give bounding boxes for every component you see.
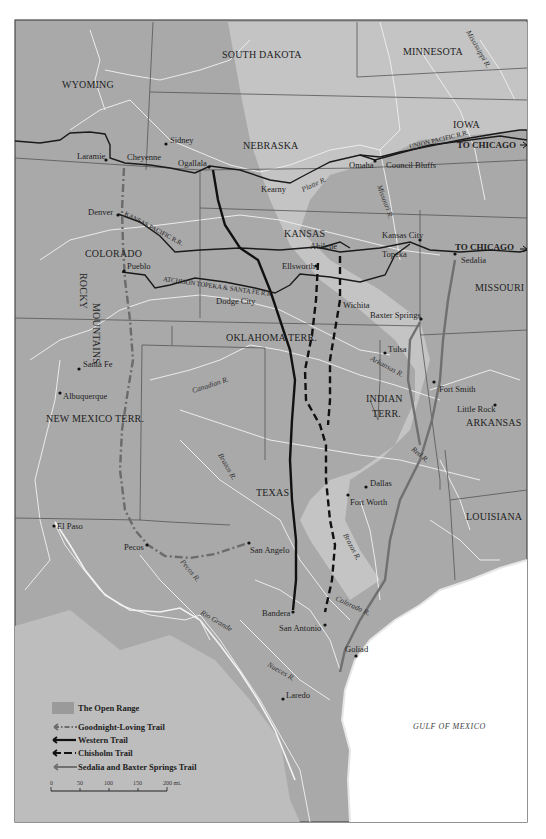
label-santa-fe: Santa Fe (83, 359, 113, 369)
label-little-rock: Little Rock (457, 404, 496, 414)
label-goliad: Goliad (345, 644, 369, 654)
scale-tick-0: 0 (50, 780, 53, 786)
label-topeka: Topeka (382, 249, 407, 259)
scale-tick-100: 100 (104, 780, 113, 786)
label-louisiana: LOUISIANA (466, 511, 523, 522)
scale-tick-150: 150 (133, 780, 142, 786)
label-new-mexico-terr: NEW MEXICO TERR. (46, 413, 144, 424)
legend-chisholm: Chisholm Trail (78, 748, 133, 758)
label-kansas: KANSAS (284, 228, 325, 239)
label-rocky: ROCKY (78, 273, 89, 309)
label-san-angelo: San Angelo (250, 545, 289, 555)
label-pueblo: Pueblo (127, 261, 151, 271)
label-dodge-city: Dodge City (216, 296, 256, 306)
label-fort-smith: Fort Smith (439, 384, 476, 394)
legend-swatch-open-range (52, 702, 74, 714)
label-pecos: Pecos (124, 542, 144, 552)
label-bandera: Bandera (262, 608, 291, 618)
label-el-paso: El Paso (57, 521, 83, 531)
label-texas: TEXAS (256, 487, 289, 498)
label-minnesota: MINNESOTA (403, 46, 463, 57)
legend-goodnight-loving: Goodnight-Loving Trail (78, 722, 165, 732)
label-baxter-springs: Baxter Springs (370, 310, 421, 320)
label-colorado: COLORADO (85, 248, 142, 259)
label-nebraska: NEBRASKA (243, 140, 299, 151)
label-arkansas: ARKANSAS (466, 417, 522, 428)
label-albuquerque: Albuquerque (63, 391, 108, 401)
legend-sedalia-baxter: Sedalia and Baxter Springs Trail (78, 762, 197, 772)
label-tulsa: Tulsa (388, 344, 407, 354)
label-denver: Denver (88, 207, 113, 217)
label-kearny: Kearny (261, 184, 287, 194)
label-cheyenne: Cheyenne (127, 152, 161, 162)
label-ellsworth: Ellsworth (282, 261, 316, 271)
label-san-antonio: San Antonio (279, 623, 321, 633)
label-to-chicago-north: TO CHICAGO (457, 140, 516, 150)
label-dallas: Dallas (370, 478, 392, 488)
label-abilene: Abilene (310, 241, 337, 251)
scale-tick-200: 200 mi. (163, 780, 182, 786)
label-laramie: Laramie (77, 151, 106, 161)
label-south-dakota: SOUTH DAKOTA (222, 49, 302, 60)
label-mountains: MOUNTAINS (91, 303, 102, 364)
label-omaha: Omaha (349, 160, 374, 170)
label-kansas-city: Kansas City (382, 230, 424, 240)
label-indian: INDIAN (366, 393, 403, 404)
label-fort-worth: Fort Worth (350, 497, 388, 507)
legend-open-range: The Open Range (78, 703, 140, 713)
label-missouri: MISSOURI (475, 282, 524, 293)
label-to-chicago-south: TO CHICAGO (455, 242, 514, 252)
label-gulf-of-mexico: GULF OF MEXICO (413, 722, 486, 731)
label-ogallala: Ogallala (178, 158, 207, 168)
label-laredo: Laredo (286, 690, 310, 700)
label-wyoming: WYOMING (62, 79, 114, 90)
label-council-bluffs: Council Bluffs (386, 160, 436, 170)
label-indian-terr: TERR. (372, 408, 401, 419)
label-sedalia: Sedalia (461, 255, 486, 265)
label-oklahoma-terr: OKLAHOMA TERR. (226, 332, 317, 343)
label-wichita: Wichita (343, 300, 370, 310)
legend-western: Western Trail (78, 735, 129, 745)
scale-tick-50: 50 (77, 780, 83, 786)
label-sidney: Sidney (170, 135, 194, 145)
cattle-trails-map: WYOMING SOUTH DAKOTA MINNESOTA IOWA NEBR… (0, 0, 546, 839)
